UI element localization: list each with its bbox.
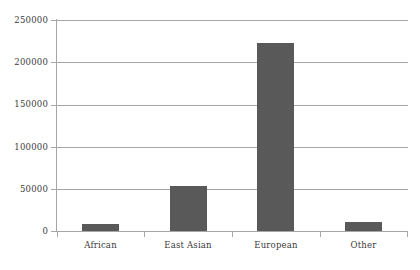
y-tick-text: 200000 — [14, 57, 48, 67]
x-axis-label-african: African — [57, 240, 144, 250]
x-label-text: Other — [351, 240, 377, 250]
x-label-text: European — [254, 240, 297, 250]
x-tick-mark — [57, 232, 58, 237]
y-axis-tick-label: 50000 — [0, 185, 48, 194]
y-tick-text: 250000 — [14, 15, 48, 25]
bar-other — [345, 222, 382, 231]
x-axis-label-european: European — [232, 240, 320, 250]
y-axis-tick-label: 250000 — [0, 16, 48, 25]
y-tick-text: 150000 — [14, 99, 48, 109]
y-axis-tick-label: 100000 — [0, 143, 48, 152]
bar-european — [257, 43, 294, 231]
x-tick-mark — [407, 232, 408, 237]
bar-east-asian — [170, 186, 207, 231]
y-axis-tick-label: 150000 — [0, 100, 48, 109]
bar-african — [82, 224, 119, 231]
x-tick-mark — [320, 232, 321, 237]
x-axis-label-east-asian: East Asian — [144, 240, 232, 250]
y-axis-tick-label: 200000 — [0, 58, 48, 67]
y-axis-tick-label: 0 — [0, 227, 48, 236]
x-label-text: African — [84, 240, 117, 250]
x-label-text: East Asian — [164, 240, 212, 250]
x-tick-mark — [232, 232, 233, 237]
y-tick-text: 50000 — [20, 184, 48, 194]
y-tick-text: 0 — [42, 226, 48, 236]
x-tick-mark — [144, 232, 145, 237]
x-axis-label-other: Other — [320, 240, 407, 250]
bar-chart: 250000 200000 150000 100000 50000 0 — [0, 0, 420, 270]
bars-group — [57, 20, 408, 231]
y-tick-text: 100000 — [14, 142, 48, 152]
